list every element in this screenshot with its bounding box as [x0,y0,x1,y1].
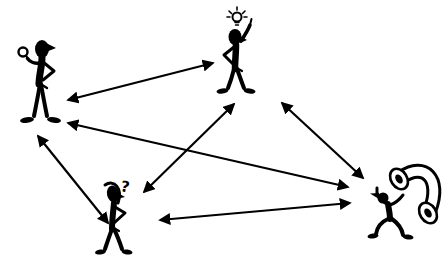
figure-person-confused: ? [95,177,133,255]
observer-foot-left [20,116,35,123]
figure-person-phone [367,165,440,240]
phone-person-arm-holding [390,195,403,205]
arrow-idea-question [144,104,234,192]
observer-arm-holding [28,59,41,64]
idea-leg-right [237,69,244,88]
observer-foot-right [47,116,62,123]
arrow-question-phone [160,203,350,220]
figure-person-idea [216,7,256,94]
arrow-observer-phone [68,123,348,187]
arrow-observer-question [38,136,108,223]
question-mark: ? [119,177,131,196]
arrow-observer-idea [68,63,213,100]
figure-person-observer [19,40,62,124]
lightbulb-icon [227,7,247,25]
observer-leg-left [34,84,40,116]
phone-person-leg-left [376,219,388,234]
phone-person-torso [388,204,390,219]
arrow-idea-phone [282,103,363,178]
phone-person-leg-right [392,219,403,235]
observer-hair-flick [46,43,56,52]
question-leg-left [105,229,112,249]
diagram-canvas: ? [0,0,445,263]
question-leg-right [114,229,122,249]
idea-torso [235,45,236,69]
communication-network-diagram: ? [0,0,445,263]
arrows-layer [38,63,363,223]
observer-arm-akimbo [43,62,54,80]
telephone-handset-icon [386,165,440,226]
idea-leg-left [228,69,234,88]
